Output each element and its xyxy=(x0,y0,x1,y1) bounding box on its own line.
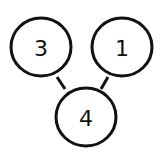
edge-3-to-4 xyxy=(57,77,65,89)
node-label: 3 xyxy=(34,36,48,61)
node-label: 1 xyxy=(115,36,129,61)
edge-1-to-4 xyxy=(101,77,108,89)
node-1: 1 xyxy=(92,18,152,76)
node-label: 4 xyxy=(79,106,93,131)
node-3: 3 xyxy=(11,18,71,76)
node-4: 4 xyxy=(56,88,116,146)
tree-diagram: 3 1 4 xyxy=(0,0,163,159)
